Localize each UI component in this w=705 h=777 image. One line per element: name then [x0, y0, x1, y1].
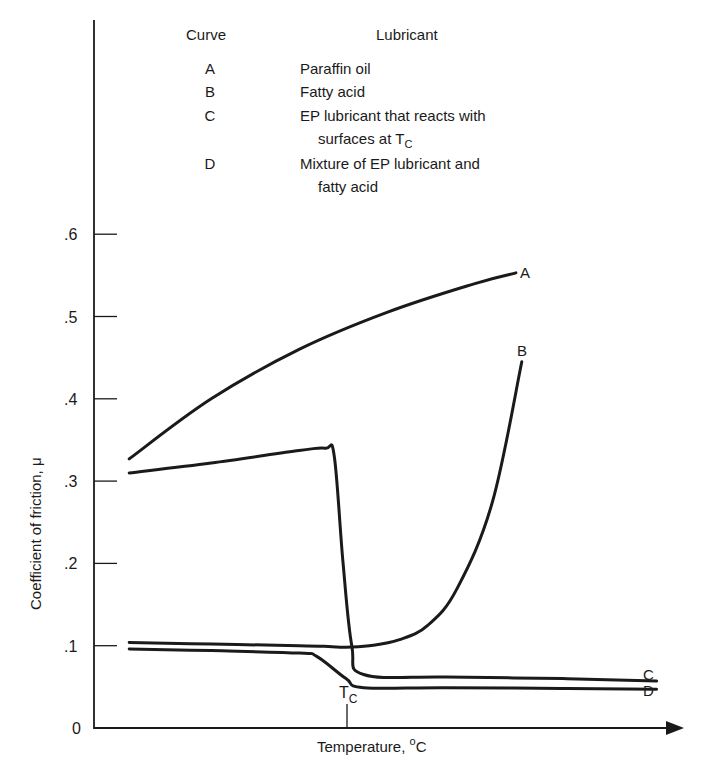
legend-desc: Fatty acid	[300, 82, 365, 102]
y-tick-label: .6	[64, 226, 77, 243]
y-tick-label: .4	[64, 391, 77, 408]
y-tick-label: .3	[64, 473, 77, 490]
legend-key: D	[200, 154, 220, 174]
legend-header-lubricant: Lubricant	[376, 25, 438, 45]
y-tick-label: 0	[72, 720, 81, 737]
curve-d	[129, 649, 656, 689]
curve-label-a: A	[520, 264, 530, 281]
curve-b	[129, 362, 522, 648]
x-axis-label: Temperature, oC	[317, 735, 427, 755]
curve-label-b: B	[517, 342, 527, 359]
curve-label-c: C	[643, 666, 654, 683]
legend-desc: EP lubricant that reacts with	[300, 106, 486, 126]
legend-header-curve: Curve	[186, 25, 226, 45]
legend-desc: Paraffin oil	[300, 59, 371, 79]
y-tick-label: .5	[64, 309, 77, 326]
y-tick-label: .2	[64, 555, 77, 572]
legend-desc: Mixture of EP lubricant and	[300, 154, 480, 174]
y-axis-label: Coefficient of friction, μ	[27, 457, 44, 610]
legend-key: B	[200, 82, 220, 102]
series-group	[129, 273, 656, 689]
x-axis-arrow-icon	[666, 721, 684, 735]
legend-desc-cont: fatty acid	[318, 177, 378, 197]
legend-desc-cont: surfaces at TC	[318, 129, 412, 154]
curve-c	[129, 445, 656, 681]
y-tick-label: .1	[64, 638, 77, 655]
curve-label-d: D	[643, 682, 654, 699]
y-ticks: 0.1.2.3.4.5.6	[64, 226, 117, 737]
legend-key: A	[200, 59, 220, 79]
curve-a	[129, 273, 516, 459]
legend-key: C	[200, 106, 220, 126]
